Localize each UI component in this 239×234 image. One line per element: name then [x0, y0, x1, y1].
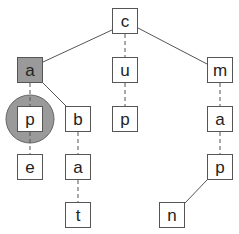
- node-p: p: [207, 154, 233, 180]
- edge-c-m: [138, 28, 207, 64]
- node-u: u: [112, 57, 138, 83]
- node-t: t: [65, 202, 91, 228]
- node-n: n: [159, 202, 185, 228]
- node-e: e: [17, 154, 43, 180]
- node-a-highlighted: a: [17, 57, 43, 83]
- node-c: c: [112, 8, 138, 34]
- node-m: m: [207, 57, 233, 83]
- edge-p-n: [185, 180, 207, 203]
- node-p: p: [112, 106, 138, 132]
- node-p-circled: p: [17, 106, 43, 132]
- node-b: b: [65, 106, 91, 132]
- node-a: a: [207, 106, 233, 132]
- edge-c-a: [43, 30, 112, 62]
- node-a: a: [65, 154, 91, 180]
